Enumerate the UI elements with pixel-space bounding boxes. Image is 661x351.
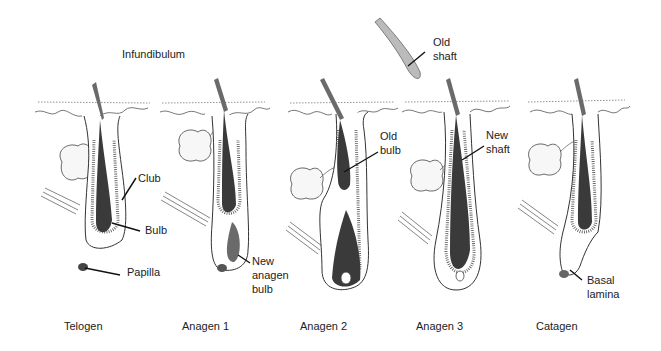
new-shaft-label-line2: shaft — [486, 143, 510, 155]
caption-catagen: Catagen — [536, 320, 578, 332]
papilla-dot — [78, 263, 88, 271]
new-shaft-label-line1: New — [486, 129, 508, 141]
old-bulb-label-line1: Old — [380, 130, 397, 142]
old-shaft-label-line2: shaft — [433, 50, 457, 62]
caption-anagen-3: Anagen 3 — [416, 320, 463, 332]
caption-anagen-1: Anagen 1 — [182, 320, 229, 332]
old-bulb-label-line2: bulb — [380, 144, 401, 156]
new-anagen-bulb-label-line3: bulb — [252, 283, 273, 295]
bulb-label: Bulb — [145, 224, 167, 236]
papilla-label: Papilla — [127, 266, 161, 278]
follicle-catagen: Basal lamina — [518, 78, 630, 300]
new-anagen-bulb-label-line1: New — [252, 255, 274, 267]
follicle-anagen-1: New anagen bulb — [160, 78, 289, 295]
follicle-anagen-3: New shaft — [398, 78, 510, 290]
old-shaft-illustration: Old shaft — [375, 18, 457, 79]
caption-anagen-2: Anagen 2 — [300, 320, 347, 332]
follicle-telogen: Club Bulb Papilla — [35, 82, 167, 278]
basal-lamina-label-line2: lamina — [587, 288, 620, 300]
hair-cycle-diagram: Infundibulum Old shaft Club Bulb Papilla — [0, 0, 661, 351]
caption-telogen: Telogen — [64, 320, 103, 332]
new-anagen-bulb-label-line2: anagen — [252, 269, 289, 281]
infundibulum-label: Infundibulum — [122, 48, 185, 60]
follicle-anagen-2: Old bulb — [286, 78, 401, 290]
club-label: Club — [138, 172, 161, 184]
basal-lamina-label-line1: Basal — [587, 274, 615, 286]
old-shaft-label-line1: Old — [433, 36, 450, 48]
papilla-leader-line — [85, 268, 120, 275]
